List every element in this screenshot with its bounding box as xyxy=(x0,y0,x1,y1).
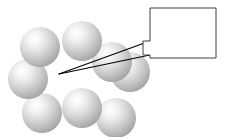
callout-box-outline xyxy=(143,8,216,58)
sphere-top-center xyxy=(62,21,102,61)
sphere-bottom-right xyxy=(96,98,136,137)
sphere-cluster-figure xyxy=(0,0,228,137)
sphere-bottom-center xyxy=(62,88,102,128)
callout-box[interactable] xyxy=(143,8,216,58)
sphere-top-left xyxy=(20,27,60,67)
figure-canvas xyxy=(0,0,228,137)
